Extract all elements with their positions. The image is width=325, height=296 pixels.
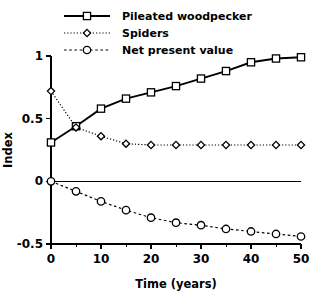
data-point-diamond bbox=[272, 141, 279, 148]
chart-figure: Pileated woodpeckerSpidersNet present va… bbox=[0, 0, 325, 296]
legend-item-net-present-value: Net present value bbox=[64, 44, 233, 57]
data-point-diamond bbox=[197, 141, 204, 148]
chart-axis-titles: Time (years)Index bbox=[1, 131, 217, 291]
data-point-circle bbox=[147, 214, 154, 221]
data-point-diamond bbox=[172, 141, 179, 148]
data-point-circle bbox=[47, 178, 54, 185]
x-axis-title: Time (years) bbox=[135, 277, 217, 291]
data-point-square bbox=[147, 89, 154, 96]
data-point-circle bbox=[172, 219, 179, 226]
data-point-square bbox=[197, 75, 204, 82]
chart-series-layer bbox=[47, 54, 304, 241]
data-point-diamond bbox=[83, 29, 90, 36]
data-point-diamond bbox=[147, 141, 154, 148]
data-point-circle bbox=[247, 228, 254, 235]
x-tick-label: 10 bbox=[93, 252, 110, 266]
data-point-circle bbox=[83, 46, 90, 53]
y-tick-label: 0 bbox=[35, 174, 43, 188]
x-tick-label: 0 bbox=[47, 252, 55, 266]
data-point-diamond bbox=[297, 141, 304, 148]
data-point-circle bbox=[122, 206, 129, 213]
legend-label: Net present value bbox=[122, 44, 233, 57]
data-point-circle bbox=[197, 222, 204, 229]
data-point-square bbox=[83, 12, 90, 19]
y-tick-label: 0.5 bbox=[22, 112, 43, 126]
chart-svg: Pileated woodpeckerSpidersNet present va… bbox=[0, 0, 325, 296]
data-point-diamond bbox=[47, 87, 54, 94]
data-point-square bbox=[297, 54, 304, 61]
data-point-diamond bbox=[247, 141, 254, 148]
y-tick-label: -0.5 bbox=[17, 237, 43, 251]
x-tick-label: 30 bbox=[193, 252, 210, 266]
data-point-square bbox=[172, 82, 179, 89]
data-point-square bbox=[247, 59, 254, 66]
data-point-circle bbox=[222, 225, 229, 232]
data-point-circle bbox=[72, 188, 79, 195]
data-point-square bbox=[222, 67, 229, 74]
data-point-circle bbox=[272, 230, 279, 237]
data-point-diamond bbox=[222, 141, 229, 148]
data-point-square bbox=[97, 105, 104, 112]
x-tick-label: 20 bbox=[143, 252, 160, 266]
x-tick-label: 40 bbox=[243, 252, 260, 266]
chart-legend: Pileated woodpeckerSpidersNet present va… bbox=[64, 10, 252, 57]
legend-label: Spiders bbox=[122, 27, 169, 40]
legend-label: Pileated woodpecker bbox=[122, 10, 252, 23]
data-point-circle bbox=[297, 233, 304, 240]
y-axis-title: Index bbox=[1, 131, 15, 167]
series-pileated-woodpecker bbox=[47, 54, 304, 146]
chart-axes: 10.50-0.501020304050 bbox=[17, 49, 310, 266]
data-point-square bbox=[47, 139, 54, 146]
data-point-circle bbox=[97, 198, 104, 205]
legend-item-spiders: Spiders bbox=[64, 27, 169, 40]
data-point-square bbox=[272, 55, 279, 62]
x-tick-label: 50 bbox=[293, 252, 310, 266]
y-tick-label: 1 bbox=[35, 49, 43, 63]
data-point-square bbox=[122, 95, 129, 102]
legend-item-pileated-woodpecker: Pileated woodpecker bbox=[64, 10, 252, 23]
series-net-present-value bbox=[47, 178, 304, 241]
data-point-diamond bbox=[122, 140, 129, 147]
series-line bbox=[51, 181, 301, 236]
series-line bbox=[51, 57, 301, 142]
data-point-diamond bbox=[97, 133, 104, 140]
